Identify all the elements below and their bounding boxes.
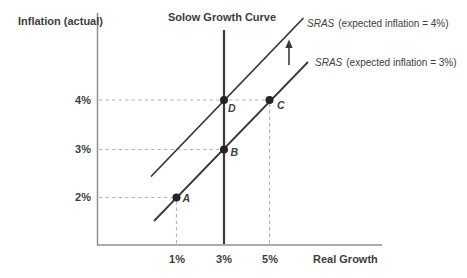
- point-d-dot: [220, 96, 228, 104]
- sras-lower-label: SRAS(expected inflation = 3%): [315, 57, 457, 68]
- y-tick-3pct: 3%: [75, 143, 91, 155]
- sras-upper-detail: (expected inflation = 4%): [338, 18, 448, 29]
- diagram-canvas: A B C D Inflation (actual) Solow Growth …: [0, 0, 467, 278]
- sras-lower-detail: (expected inflation = 3%): [346, 57, 456, 68]
- sras-upper-name: SRAS: [307, 18, 335, 29]
- sras-upper-label: SRAS(expected inflation = 4%): [307, 18, 449, 29]
- y-tick-4pct: 4%: [75, 94, 91, 106]
- sras-curve-expected-4pct: [152, 19, 304, 177]
- point-b-label: B: [231, 146, 239, 158]
- y-tick-2pct: 2%: [75, 191, 91, 203]
- shift-up-arrow-icon: [285, 40, 292, 66]
- point-b-dot: [220, 146, 228, 154]
- sras-lower-name: SRAS: [315, 57, 343, 68]
- point-c-dot: [266, 96, 274, 104]
- chart-title: Solow Growth Curve: [168, 11, 276, 23]
- x-tick-5pct: 5%: [262, 253, 278, 265]
- x-axis-title: Real Growth: [313, 253, 378, 265]
- y-axis-title: Inflation (actual): [18, 15, 103, 27]
- solow-sras-diagram: A B C D Inflation (actual) Solow Growth …: [0, 0, 467, 278]
- x-tick-3pct: 3%: [216, 253, 232, 265]
- point-a-dot: [173, 194, 181, 202]
- point-a-label: A: [182, 192, 191, 204]
- point-d-label: D: [228, 102, 236, 114]
- point-c-label: C: [277, 99, 285, 111]
- x-tick-1pct: 1%: [169, 253, 185, 265]
